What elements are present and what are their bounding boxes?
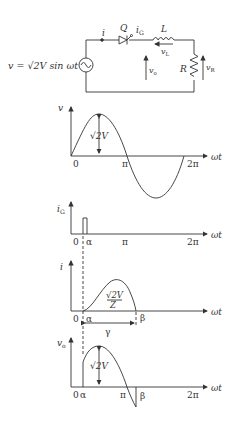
source-label: v = √2V sin ωt <box>8 60 78 71</box>
tick-2pi: 2π <box>187 390 199 400</box>
tick-alpha: α <box>86 314 92 324</box>
current-label: i <box>102 28 105 38</box>
gate-pulse <box>83 218 87 234</box>
resistor-icon <box>190 54 198 77</box>
vo-curve <box>83 346 136 407</box>
resistor-label: R <box>179 64 187 74</box>
wire-top-right <box>174 40 194 54</box>
resistor-voltage-label: vR <box>206 63 216 73</box>
thyristor-rl-diagram: v = √2V sin ωt i Q iG L vL vo R vR v ωt … <box>0 0 238 424</box>
plot-vo-amplitude: √2V <box>90 361 109 371</box>
inductor-icon <box>153 38 174 41</box>
plot-vo-xlabel: ωt <box>211 383 222 393</box>
plot-v-xlabel: ωt <box>211 152 222 162</box>
wire-right-bottom <box>86 72 194 92</box>
current-node-dot <box>101 39 104 42</box>
peak-denominator: Z <box>109 300 117 310</box>
gate-current-label: iG <box>136 25 144 36</box>
tick-2pi: 2π <box>187 237 199 247</box>
tick-alpha: α <box>80 390 86 400</box>
plot-ig <box>71 202 207 355</box>
peak-numerator: √2V <box>106 290 124 300</box>
gamma-label: γ <box>105 327 110 337</box>
plot-vo-ylabel: vo <box>57 338 66 349</box>
tick-pi: π <box>122 159 128 169</box>
plot-ig-ylabel: iG <box>57 204 65 215</box>
tick-pi: π <box>122 237 128 247</box>
tick-0: 0 <box>73 314 79 324</box>
wire-top-left <box>86 40 119 58</box>
tick-0: 0 <box>73 390 79 400</box>
tick-beta: β <box>140 313 145 323</box>
plot-v-amplitude: √2V <box>90 131 109 141</box>
tick-2pi: 2π <box>187 159 199 169</box>
plot-i-xlabel: ωt <box>211 307 222 317</box>
inductor-label: L <box>160 24 167 34</box>
plot-ig-xlabel: ωt <box>211 230 222 240</box>
output-voltage-label: vo <box>149 66 158 76</box>
tick-beta: β <box>140 391 145 401</box>
tick-0: 0 <box>73 237 79 247</box>
thyristor-label: Q <box>120 23 128 33</box>
thyristor-icon <box>119 35 133 45</box>
plot-i-ylabel: i <box>60 262 63 272</box>
plot-v-ylabel: v <box>58 103 63 113</box>
sine-glyph-icon <box>81 63 91 68</box>
tick-alpha: α <box>86 237 92 247</box>
inductor-voltage-label: vL <box>161 47 170 57</box>
tick-0: 0 <box>73 159 79 169</box>
tick-pi: π <box>120 390 126 400</box>
plot-v <box>71 107 207 198</box>
